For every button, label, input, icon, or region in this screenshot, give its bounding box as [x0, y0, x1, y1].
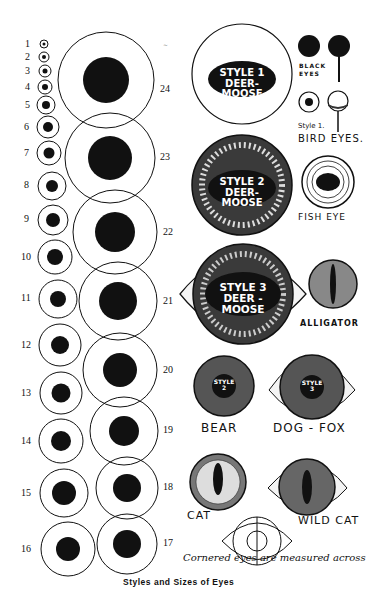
- size-number-label: 17: [163, 538, 173, 548]
- eye-size-10: [38, 240, 72, 274]
- cat-label: CAT: [187, 509, 211, 522]
- alligator-eye-icon: [309, 260, 357, 308]
- cornered-eyes-note: Cornered eyes are measured across: [183, 552, 366, 563]
- eye-size-23: [65, 113, 155, 203]
- size-number-label: 8: [24, 180, 29, 190]
- size-number-label: 20: [163, 365, 173, 375]
- size-number-label: 19: [163, 425, 173, 435]
- eye-size-16: [41, 522, 95, 576]
- size-number-label: 14: [21, 436, 31, 446]
- eye-size-9: [38, 205, 68, 235]
- size-number-label: 7: [24, 148, 29, 158]
- eye-size-14: [39, 419, 83, 463]
- alligator-label: ALLIGATOR: [300, 319, 359, 328]
- size-number-label: 10: [21, 252, 31, 262]
- size-number-label: 12: [21, 340, 31, 350]
- size-number-label: 18: [163, 482, 173, 492]
- eye-size-17: [97, 514, 157, 574]
- style2-oval-label: STYLE 2 DEER-MOOSE: [208, 177, 276, 209]
- size-number-label: 2: [25, 52, 30, 62]
- size-number-label: 23: [160, 152, 170, 162]
- size-number-label: 6: [24, 122, 29, 132]
- size-number-label: 9: [24, 214, 29, 224]
- figure-caption: Styles and Sizes of Eyes: [123, 577, 234, 587]
- eye-size-20: [83, 333, 157, 407]
- black-eyes-label: BLACK EYES: [299, 62, 333, 78]
- size-number-label: 4: [25, 82, 30, 92]
- size-number-label: 3: [25, 66, 30, 76]
- wild-cat-eye-icon: [268, 459, 347, 515]
- dog-fox-label: DOG - FOX: [273, 421, 346, 435]
- bear-style-badge: STYLE 2: [210, 379, 238, 392]
- size-number-label: 5: [25, 100, 30, 110]
- size-number-label: 1: [25, 39, 30, 49]
- eye-size-4: [38, 80, 52, 94]
- size-number-label: 22: [163, 227, 173, 237]
- size-number-label: 24: [160, 84, 170, 94]
- eye-size-6: [37, 116, 59, 138]
- cat-eye-icon: [190, 454, 246, 510]
- stray-mark: ~: [163, 41, 168, 48]
- size-number-label: 15: [21, 488, 31, 498]
- size-number-label: 21: [163, 296, 173, 306]
- style3-oval-label: STYLE 3 DEER - MOOSE: [203, 282, 283, 315]
- eye-size-1: [40, 40, 48, 48]
- style1-oval-label: STYLE 1 DEER-MOOSE: [208, 68, 276, 100]
- fish-eye-icon: [302, 156, 354, 208]
- eye-size-18: [96, 457, 158, 519]
- eye-size-2: [39, 52, 49, 62]
- eye-size-13: [40, 372, 82, 414]
- eye-size-7: [37, 141, 61, 165]
- dogfox-style-badge: STYLE 3: [298, 380, 326, 393]
- size-number-label: 13: [21, 388, 31, 398]
- eye-size-11: [39, 280, 77, 318]
- style1-small-label: Style 1.: [298, 122, 325, 130]
- wild-cat-label: WILD CAT: [298, 514, 359, 527]
- eye-size-15: [40, 469, 88, 517]
- bear-label: BEAR: [201, 421, 237, 435]
- eye-size-8: [38, 172, 66, 200]
- bird-eyes-label: BIRD EYES.: [298, 133, 364, 144]
- eye-size-5: [37, 96, 55, 114]
- eye-size-circles: [37, 32, 158, 576]
- size-number-label: 16: [21, 544, 31, 554]
- size-number-label: 11: [21, 293, 31, 303]
- eye-size-3: [39, 65, 51, 77]
- eye-size-12: [39, 324, 81, 366]
- fish-eye-label: FISH EYE: [298, 212, 346, 222]
